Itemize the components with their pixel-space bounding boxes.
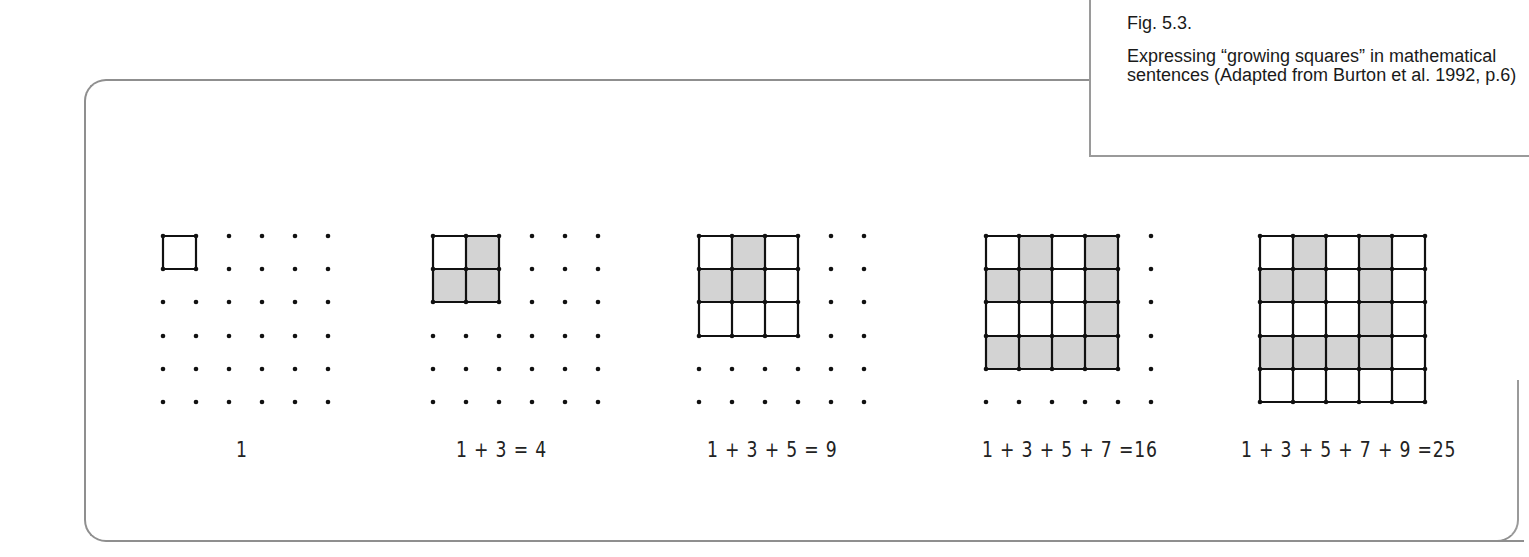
shaded-cell bbox=[1359, 236, 1392, 269]
shaded-cell bbox=[1085, 269, 1118, 302]
dot-grid-panel-2 bbox=[431, 234, 601, 405]
sentence-label-5: 1 + 3 + 5 + 7 + 9 =25 bbox=[1241, 438, 1456, 462]
shaded-cell bbox=[1260, 269, 1293, 302]
shaded-cell bbox=[699, 269, 732, 302]
shaded-cell bbox=[732, 269, 765, 302]
figure-description: Expressing “growing squares” in mathemat… bbox=[1127, 47, 1517, 85]
shaded-cell bbox=[466, 269, 499, 302]
shaded-cell bbox=[1293, 269, 1326, 302]
sentence-label-2: 1 + 3 = 4 bbox=[456, 438, 547, 462]
shaded-cell bbox=[1260, 336, 1293, 369]
shaded-cell bbox=[1019, 269, 1052, 302]
dot-grid-panel-5 bbox=[1258, 234, 1428, 405]
shaded-cell bbox=[1359, 302, 1392, 336]
shaded-cell bbox=[732, 236, 765, 269]
shaded-cell bbox=[1359, 269, 1392, 302]
sentence-label-3: 1 + 3 + 5 = 9 bbox=[707, 438, 838, 462]
shaded-cell bbox=[433, 269, 466, 302]
figure-caption: Fig. 5.3. Expressing “growing squares” i… bbox=[1089, 0, 1529, 157]
shaded-cell bbox=[986, 269, 1019, 302]
shaded-cell bbox=[1293, 336, 1326, 369]
shaded-cell bbox=[1019, 336, 1052, 369]
shaded-cell bbox=[1085, 302, 1118, 336]
shaded-cell bbox=[466, 236, 499, 269]
shaded-cell bbox=[1293, 236, 1326, 269]
shaded-cell bbox=[1019, 236, 1052, 269]
shaded-cell bbox=[1359, 336, 1392, 369]
sentence-label-1: 1 bbox=[236, 438, 248, 462]
sentence-label-4: 1 + 3 + 5 + 7 =16 bbox=[982, 438, 1158, 462]
shaded-cell bbox=[1052, 336, 1085, 369]
dot-grid-panel-4 bbox=[984, 234, 1154, 405]
shaded-cell bbox=[986, 336, 1019, 369]
dot-grid-panel-3 bbox=[697, 234, 867, 405]
shaded-cell bbox=[1326, 336, 1359, 369]
shaded-cell bbox=[1085, 336, 1118, 369]
figure-number: Fig. 5.3. bbox=[1127, 12, 1529, 34]
shaded-cell bbox=[1085, 236, 1118, 269]
dot-grid-panel-1 bbox=[161, 234, 331, 405]
